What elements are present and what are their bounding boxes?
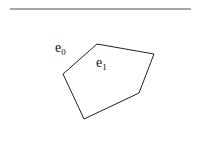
diagram-canvas: e0 e1 bbox=[0, 0, 201, 157]
pentagon-shape bbox=[63, 44, 154, 119]
label-e1: e1 bbox=[96, 55, 107, 72]
label-e0: e0 bbox=[55, 40, 66, 57]
